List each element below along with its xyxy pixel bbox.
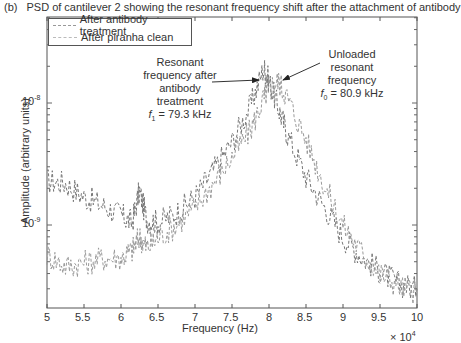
legend: After antibody treatment After piranha c…: [48, 18, 192, 46]
x-tick-label: 8: [266, 311, 272, 323]
annotation-line: treatment: [140, 95, 220, 108]
x-axis-multiplier: × 104: [390, 330, 416, 343]
x-tick-label: 6.5: [149, 311, 164, 323]
annotation-formula: f0 = 80.9 kHz: [316, 87, 388, 104]
x-tick-label: 9.5: [371, 311, 386, 323]
x-tick-label: 5.5: [75, 311, 90, 323]
series-line-1: [47, 73, 417, 304]
annotation-line: Unloaded: [316, 48, 388, 61]
annotation-line: frequency after: [140, 69, 220, 82]
annotation-formula: f1 = 79.3 kHz: [140, 108, 220, 125]
y-axis-label: Amplitude (arbitrary units): [19, 96, 31, 226]
x-axis-label: Frequency (Hz): [182, 322, 258, 334]
annotation-f0: Unloaded resonant frequency f0 = 80.9 kH…: [316, 48, 388, 104]
arrow-f0-icon: [283, 63, 320, 80]
legend-swatch-dashed-icon: [53, 25, 76, 26]
annotation-line: frequency: [316, 74, 388, 87]
legend-item-antibody: After antibody treatment: [49, 19, 191, 31]
legend-swatch-dashed-icon: [53, 37, 77, 38]
annotation-line: Resonant: [140, 56, 220, 69]
annotation-line: antibody: [140, 82, 220, 95]
x-tick-label: 7.5: [223, 311, 238, 323]
legend-label: After piranha clean: [81, 31, 173, 43]
y-tick-label: 10-8: [22, 94, 40, 107]
x-tick-label: 5: [44, 311, 50, 323]
x-tick-label: 10: [411, 311, 423, 323]
y-tick-label: 10-9: [22, 216, 40, 229]
x-tick-label: 7: [192, 311, 198, 323]
x-tick-label: 9: [340, 311, 346, 323]
x-tick-label: 6: [118, 311, 124, 323]
annotation-f1: Resonant frequency after antibody treatm…: [140, 56, 220, 125]
legend-item-piranha: After piranha clean: [49, 31, 191, 43]
annotation-line: resonant: [316, 61, 388, 74]
x-tick-label: 8.5: [297, 311, 312, 323]
